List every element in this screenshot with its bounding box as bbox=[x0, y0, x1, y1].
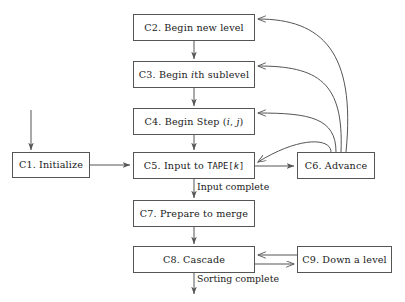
node-C5-label-prefix: C5. Input to bbox=[144, 160, 207, 171]
node-C8-cascade[interactable]: C8. Cascade bbox=[133, 246, 255, 273]
node-C5-input-to-tape[interactable]: C5. Input to TAPE[k] bbox=[133, 152, 255, 179]
node-C6-label: C6. Advance bbox=[305, 161, 368, 171]
node-C4-label: C4. Begin Step (i, j) bbox=[145, 117, 244, 127]
node-C8-label: C8. Cascade bbox=[163, 255, 225, 265]
node-C4-begin-step[interactable]: C4. Begin Step (i, j) bbox=[133, 108, 255, 135]
edge-C6-to-C3 bbox=[258, 66, 341, 152]
node-C5-label: C5. Input to TAPE[k] bbox=[144, 161, 244, 171]
node-C5-label-tape: TAPE[ bbox=[207, 161, 233, 171]
node-C4-label-prefix: C4. Begin Step ( bbox=[145, 116, 227, 127]
node-C7-prepare-to-merge[interactable]: C7. Prepare to merge bbox=[133, 200, 255, 227]
node-C3-label-prefix: C3. Begin bbox=[139, 69, 191, 80]
edge-label-sorting-complete: Sorting complete bbox=[197, 273, 279, 284]
edge-label-input-complete: Input complete bbox=[197, 181, 269, 192]
node-C3-label: C3. Begin ith sublevel bbox=[139, 70, 249, 80]
edge-C6-to-C2 bbox=[258, 19, 348, 152]
node-C6-advance[interactable]: C6. Advance bbox=[297, 152, 375, 179]
node-C5-label-bracket: ] bbox=[239, 161, 244, 171]
node-C2-label: C2. Begin new level bbox=[144, 23, 244, 33]
node-C3-begin-ith-sublevel[interactable]: C3. Begin ith sublevel bbox=[133, 61, 255, 88]
node-C9-down-a-level[interactable]: C9. Down a level bbox=[297, 246, 392, 273]
flowchart-canvas: C1. Initialize C2. Begin new level C3. B… bbox=[0, 0, 405, 302]
node-C7-label: C7. Prepare to merge bbox=[140, 209, 248, 219]
edge-C6-to-C4 bbox=[258, 113, 336, 152]
node-C9-label: C9. Down a level bbox=[302, 255, 387, 265]
node-C1-initialize[interactable]: C1. Initialize bbox=[12, 152, 90, 178]
node-C2-begin-new-level[interactable]: C2. Begin new level bbox=[133, 14, 255, 41]
node-C1-label: C1. Initialize bbox=[19, 160, 83, 170]
node-C3-label-suffix: th sublevel bbox=[194, 69, 249, 80]
node-C4-label-suffix: ) bbox=[240, 116, 244, 127]
